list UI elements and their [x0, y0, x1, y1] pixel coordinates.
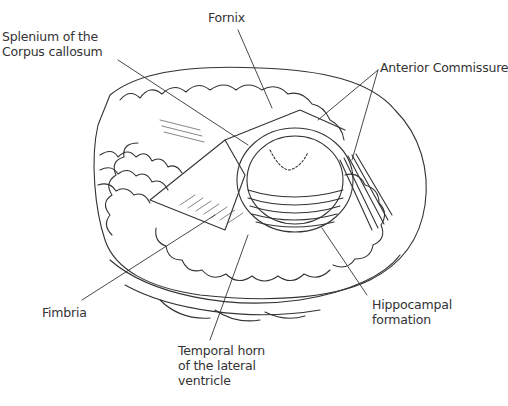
- label-line: Fimbria: [42, 305, 87, 320]
- label-line: ventricle: [178, 373, 265, 388]
- leader-temporal-horn: [210, 235, 248, 340]
- left-cut-gyri: [100, 151, 182, 173]
- base-ridge-2: [125, 285, 320, 315]
- label-fimbria: Fimbria: [42, 305, 87, 320]
- leader-hippocampal: [322, 228, 367, 295]
- label-fornix: Fornix: [208, 10, 245, 25]
- gyri-upper: [120, 85, 344, 140]
- fornix-ring: [237, 128, 353, 232]
- label-line: Fornix: [208, 10, 245, 25]
- label-line: of the lateral: [178, 358, 265, 373]
- label-line: formation: [372, 312, 452, 327]
- label-line: Hippocampal: [372, 297, 452, 312]
- leader-anterior-commissure-1: [318, 70, 378, 120]
- outer-cortex-contour: [94, 67, 426, 298]
- label-temporal-horn: Temporal horn of the lateral ventricle: [178, 343, 265, 388]
- leader-fornix: [238, 30, 272, 108]
- label-hippocampal-formation: Hippocampal formation: [372, 297, 452, 327]
- label-anterior-commissure: Anterior Commissure: [380, 60, 508, 75]
- label-line: Anterior Commissure: [380, 60, 508, 75]
- leader-splenium: [118, 60, 248, 145]
- label-line: Corpus callosum: [2, 44, 103, 59]
- label-line: Temporal horn: [178, 343, 265, 358]
- label-splenium: Splenium of the Corpus callosum: [2, 29, 103, 59]
- label-line: Splenium of the: [2, 29, 103, 44]
